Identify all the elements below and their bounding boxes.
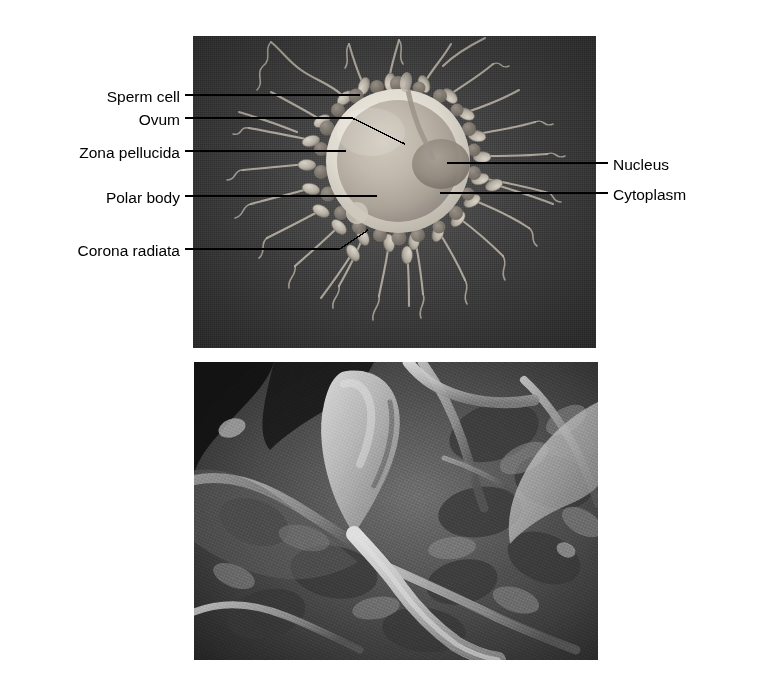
figure-root: Sperm cell Ovum Zona pellucida Polar bod…	[0, 0, 767, 684]
label-ovum: Ovum	[139, 112, 180, 128]
illustration-vignette	[193, 36, 596, 348]
sperm-micrograph-panel	[194, 362, 598, 660]
label-corona-radiata: Corona radiata	[77, 243, 180, 259]
label-sperm-cell: Sperm cell	[107, 89, 180, 105]
label-polar-body: Polar body	[106, 190, 180, 206]
ovum-illustration-panel	[193, 36, 596, 348]
micrograph-grain-overlay	[194, 362, 598, 660]
label-zona-pellucida: Zona pellucida	[79, 145, 180, 161]
label-cytoplasm: Cytoplasm	[613, 187, 686, 203]
label-nucleus: Nucleus	[613, 157, 669, 173]
